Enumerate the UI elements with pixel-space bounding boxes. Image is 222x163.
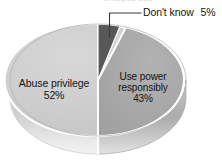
slice-label-use-power-value: 43% (110, 93, 176, 104)
slice-label-use-power-line1: Use power (120, 71, 167, 82)
slice-label-dont-know: Don't know 5% (143, 7, 221, 19)
slice-label-use-power-line2: responsibly (110, 82, 176, 93)
slice-label-abuse-privilege-value: 52% (6, 90, 102, 102)
slice-label-abuse-privilege-name: Abuse privilege (19, 77, 89, 89)
slice-label-dont-know-name: Don't know (143, 6, 194, 18)
slice-label-use-power-responsibly: Use power responsibly 43% (110, 71, 176, 105)
slice-label-abuse-privilege: Abuse privilege 52% (6, 78, 102, 102)
pie-chart-figure: cropped title (0, 0, 222, 163)
slice-label-dont-know-value: 5% (200, 6, 215, 18)
